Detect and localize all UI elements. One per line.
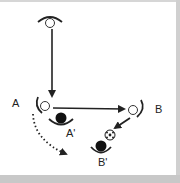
soccer-ball-icon bbox=[105, 130, 115, 140]
frame-bottom-edge bbox=[0, 175, 180, 183]
label-player-a: A bbox=[12, 98, 19, 109]
player-a-icon bbox=[37, 97, 50, 113]
frame-top-edge bbox=[0, 0, 180, 2]
frame-right-edge bbox=[176, 0, 180, 183]
player-b-icon bbox=[129, 100, 143, 117]
label-defender-a: A' bbox=[66, 128, 75, 139]
diagram-frame: A B A' B' bbox=[0, 0, 180, 183]
defender-a-icon bbox=[49, 113, 73, 125]
pass-arrow-to-ball bbox=[115, 118, 130, 128]
diagram-canvas bbox=[0, 0, 180, 183]
pass-arrow-right bbox=[53, 108, 124, 109]
top-player-icon bbox=[38, 17, 62, 28]
label-defender-b: B' bbox=[98, 157, 107, 168]
label-player-b: B bbox=[155, 104, 162, 115]
defender-b-icon bbox=[91, 141, 111, 153]
